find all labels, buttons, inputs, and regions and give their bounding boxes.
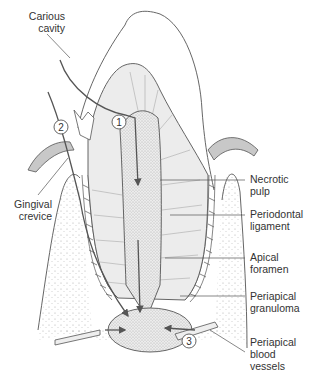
label-necrotic-pulp: Necrotic pulp (250, 173, 289, 197)
svg-text:3: 3 (186, 336, 192, 347)
label-periapical-granuloma: Periapical granuloma (250, 290, 300, 314)
label-carious-cavity: Carious cavity (5, 10, 65, 34)
label-periodontal-ligament: Periodontal ligament (250, 208, 303, 232)
marker-2: 2 (54, 120, 68, 134)
carious-notch (74, 110, 94, 140)
svg-text:2: 2 (58, 122, 64, 133)
marker-3: 3 (182, 334, 196, 348)
svg-text:1: 1 (116, 117, 122, 128)
gingiva-right (208, 138, 258, 160)
label-periapical-blood-vessels: Periapical blood vessels (250, 336, 296, 371)
label-gingival-crevice: Gingival crevice (0, 198, 52, 222)
pulp-canal (120, 111, 161, 310)
label-apical-foramen: Apical foramen (250, 251, 289, 275)
marker-1: 1 (112, 115, 126, 129)
gingiva-left (28, 142, 74, 172)
